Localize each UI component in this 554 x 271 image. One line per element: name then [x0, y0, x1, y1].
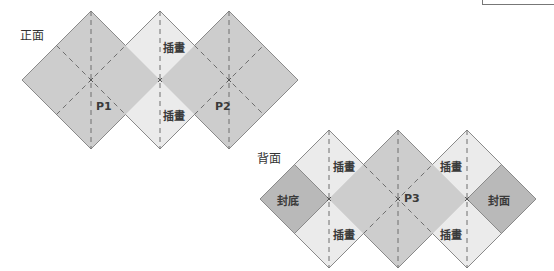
- p1-label: P1: [96, 100, 112, 113]
- insert-label-right-bottom: 插畫: [440, 226, 462, 242]
- insert-label-top: 插畫: [163, 39, 185, 55]
- back-title: 背面: [257, 149, 281, 166]
- front-strip: [22, 11, 298, 149]
- back-cover-label: 封底: [277, 192, 299, 208]
- insert-label-left-bottom: 插畫: [333, 226, 355, 242]
- p3-label: P3: [404, 192, 420, 205]
- front-cover-label: 封面: [488, 192, 510, 208]
- insert-label-bottom: 插畫: [163, 107, 185, 123]
- insert-label-left-top: 插畫: [333, 158, 355, 174]
- p2-label: P2: [215, 100, 231, 113]
- front-title: 正面: [20, 26, 44, 43]
- insert-label-right-top: 插畫: [440, 158, 462, 174]
